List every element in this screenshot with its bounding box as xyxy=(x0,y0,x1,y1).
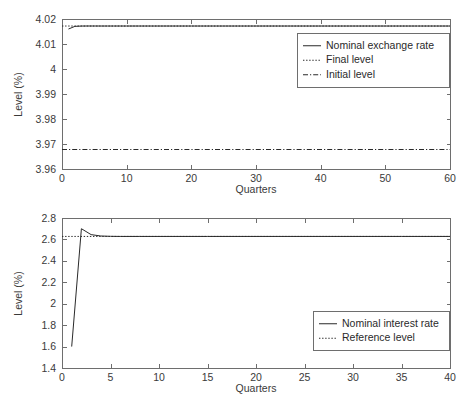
x-tick-label: 10 xyxy=(153,371,165,383)
y-tick-label: 4.01 xyxy=(36,38,57,50)
series-line-nominal-exchange-rate xyxy=(68,26,450,29)
x-tick-label: 15 xyxy=(202,371,214,383)
y-tick-label: 2.6 xyxy=(41,233,56,245)
x-tick-label: 5 xyxy=(108,371,114,383)
y-tick-label: 2.2 xyxy=(41,276,56,288)
chart-panel-nominal-interest-rate: 0510152025303540 1.41.61.822.22.42.62.8 … xyxy=(0,203,472,407)
y-tick-label: 2 xyxy=(50,297,56,309)
x-tick-label: 40 xyxy=(315,172,327,184)
x-tick-label: 0 xyxy=(59,371,65,383)
figure-root: 0102030405060 3.963.973.983.9944.014.02 … xyxy=(0,0,472,407)
chart-panel-nominal-exchange-rate: 0102030405060 3.963.973.983.9944.014.02 … xyxy=(0,0,472,203)
nominal-interest-rate-plot: 0510152025303540 1.41.61.822.22.42.62.8 … xyxy=(0,203,472,407)
legend-label: Nominal exchange rate xyxy=(326,39,434,51)
x-tick-label: 60 xyxy=(444,172,456,184)
x-axis-title: Quarters xyxy=(236,382,277,394)
x-tick-label: 35 xyxy=(396,371,408,383)
legend-label: Nominal interest rate xyxy=(342,317,439,329)
y-axis-title: Level (%) xyxy=(12,72,24,116)
y-tick-label: 4 xyxy=(50,63,56,75)
y-tick-label: 3.99 xyxy=(36,88,57,100)
y-tick-label: 1.4 xyxy=(41,362,56,374)
legend-nominal-exchange-rate[interactable]: Nominal exchange rateFinal levelInitial … xyxy=(298,34,450,88)
y-tick-label: 3.97 xyxy=(36,138,57,150)
x-tick-label: 25 xyxy=(299,371,311,383)
y-axis-tick-labels: 3.963.973.983.9944.014.02 xyxy=(36,13,57,175)
x-tick-label: 50 xyxy=(379,172,391,184)
y-tick-label: 2.4 xyxy=(41,254,56,266)
nominal-exchange-rate-plot: 0102030405060 3.963.973.983.9944.014.02 … xyxy=(0,0,472,203)
x-tick-label: 10 xyxy=(121,172,133,184)
y-axis-title: Level (%) xyxy=(12,271,24,315)
legend-label: Initial level xyxy=(326,68,375,80)
y-tick-label: 1.6 xyxy=(41,340,56,352)
x-tick-label: 40 xyxy=(444,371,456,383)
y-axis-tick-labels: 1.41.61.822.22.42.62.8 xyxy=(41,212,56,374)
legend-label: Reference level xyxy=(342,331,415,343)
x-tick-label: 30 xyxy=(347,371,359,383)
legend-label: Final level xyxy=(326,53,373,65)
y-tick-label: 1.8 xyxy=(41,319,56,331)
x-axis-title: Quarters xyxy=(236,183,277,195)
y-tick-label: 4.02 xyxy=(36,13,57,25)
legend-nominal-interest-rate[interactable]: Nominal interest rateReference level xyxy=(314,312,450,351)
y-tick-label: 3.98 xyxy=(36,113,57,125)
y-tick-label: 2.8 xyxy=(41,212,56,224)
y-tick-label: 3.96 xyxy=(36,163,57,175)
x-tick-label: 20 xyxy=(185,172,197,184)
x-tick-label: 0 xyxy=(59,172,65,184)
